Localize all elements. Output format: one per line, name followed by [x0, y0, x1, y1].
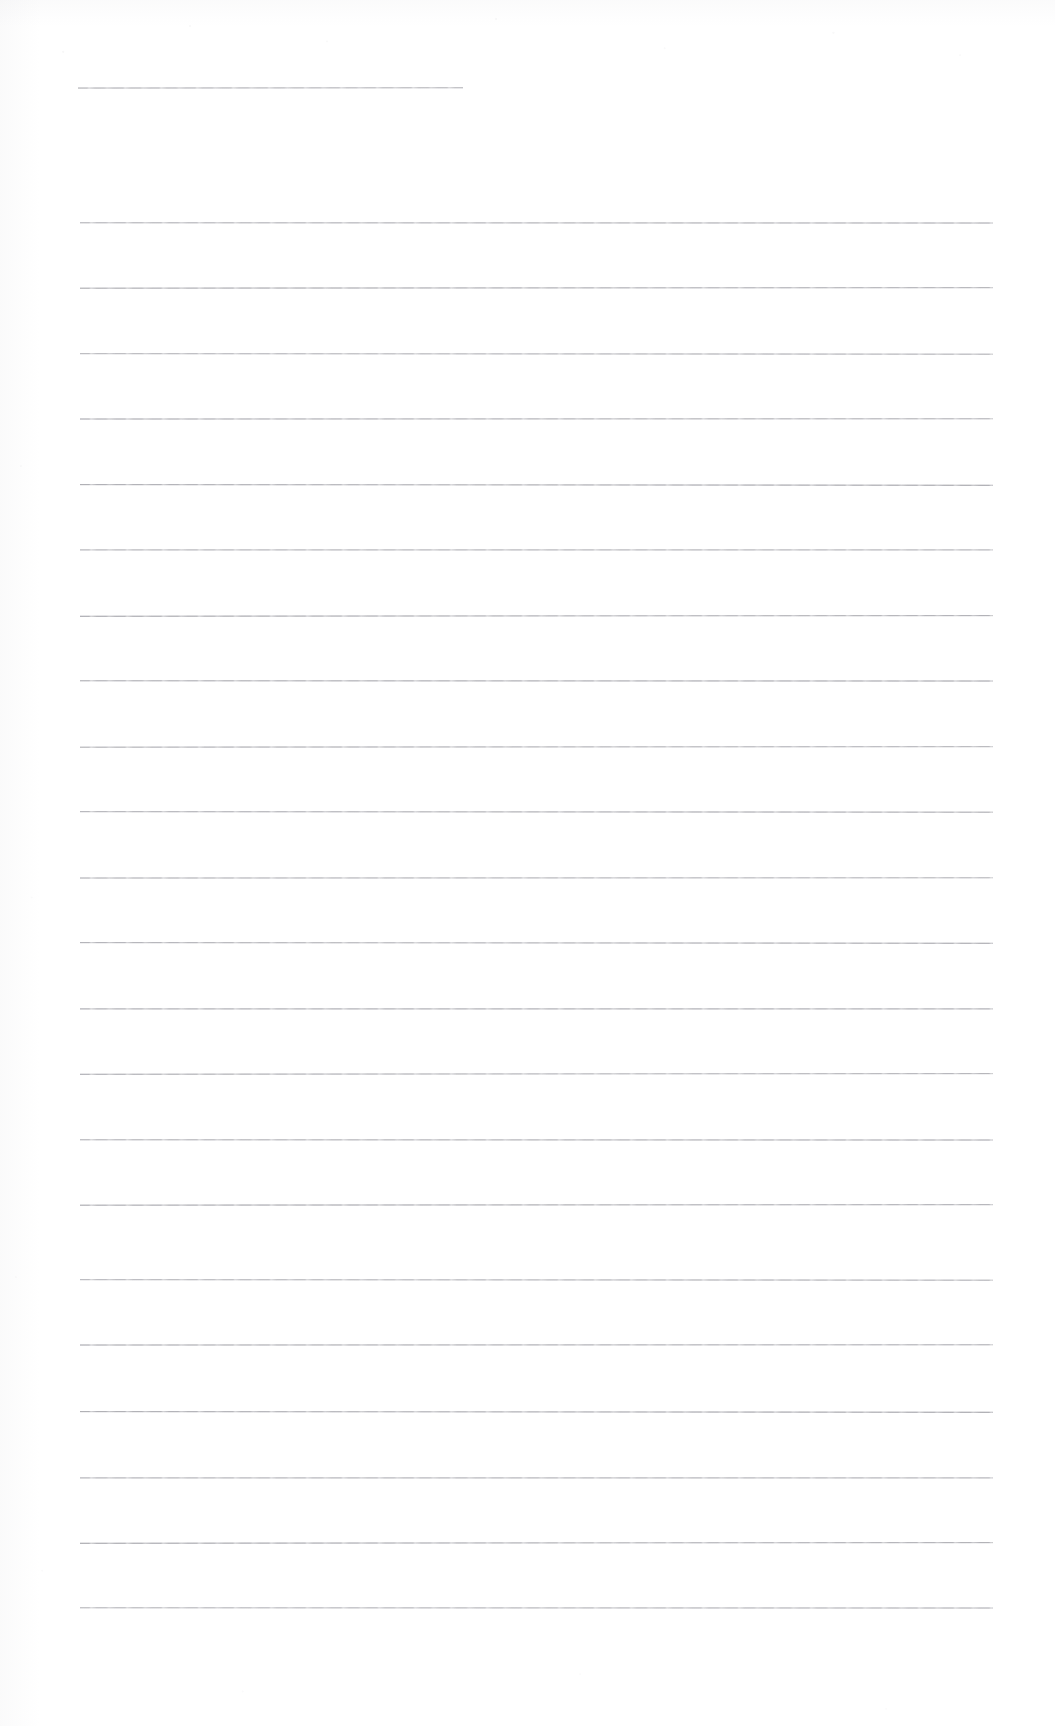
ruled-line — [80, 549, 993, 551]
ruled-line — [80, 1008, 993, 1010]
ruled-line — [80, 1542, 993, 1544]
ruled-line — [80, 811, 993, 813]
scanned-page — [0, 0, 1055, 1726]
ruled-line — [80, 1477, 993, 1479]
ruled-line — [80, 1411, 993, 1413]
ruled-line — [80, 418, 993, 420]
ruled-line — [80, 287, 993, 289]
ruled-line — [80, 484, 993, 486]
ruled-line — [80, 942, 993, 944]
ruled-line — [80, 746, 993, 748]
ruled-line — [80, 615, 993, 617]
left-edge-shading — [0, 0, 40, 1726]
ruled-line — [80, 877, 993, 879]
ruled-line — [80, 680, 993, 682]
header-ruled-line — [78, 87, 463, 89]
ruled-line — [80, 1139, 993, 1141]
ruled-line — [80, 1204, 993, 1206]
ruled-line — [80, 1279, 993, 1281]
paper-grain-texture — [0, 0, 1055, 1726]
ruled-line — [80, 1073, 993, 1075]
ruled-line — [80, 1344, 993, 1346]
ruled-line — [80, 353, 993, 355]
ruled-line — [80, 1607, 993, 1609]
top-edge-shading — [0, 0, 1055, 26]
ruled-line — [80, 222, 993, 224]
